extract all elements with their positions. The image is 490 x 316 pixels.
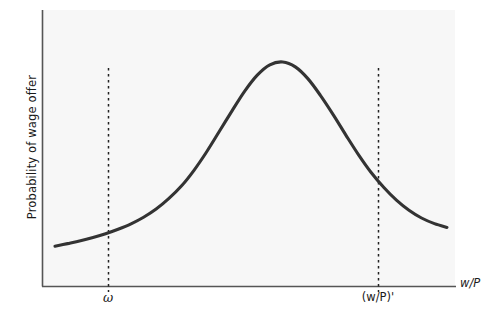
- plot-background: [43, 10, 455, 286]
- chart-figure: Probability of wage offer ω (w/P)' w/P: [0, 0, 490, 316]
- x-tick-label-market-wage: (w/P)': [362, 290, 394, 304]
- y-axis-label: Probability of wage offer: [25, 37, 39, 257]
- x-axis-label: w/P: [460, 276, 480, 290]
- chart-canvas: [0, 0, 490, 316]
- x-tick-label-reservation-wage: ω: [103, 290, 113, 305]
